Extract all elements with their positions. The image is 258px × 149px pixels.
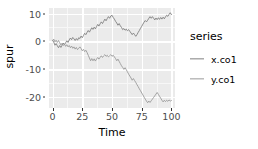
x-axis-tick-label: 25 [76, 111, 88, 122]
legend: series x.co1y.co1 [189, 30, 258, 89]
legend-item[interactable]: y.co1 [189, 69, 258, 89]
y-axis-tick-label-group: 100-10-20 [16, 8, 45, 108]
x-axis-tick-label: 50 [106, 111, 118, 122]
y-axis-tick-label: -20 [25, 91, 41, 102]
x-axis-title: Time [49, 126, 175, 139]
y-axis-title-text: spur [3, 44, 16, 68]
y-axis-tick-label: -10 [25, 64, 41, 75]
x-axis-tick-label: 100 [162, 111, 180, 122]
plot-panel [49, 8, 175, 108]
y-axis-tick-mark [43, 41, 46, 42]
chart-container: spur 100-10-20 0255075100 Time series x.… [0, 0, 258, 149]
x-axis-tick-label: 0 [50, 111, 56, 122]
y-axis-tick-label: 0 [35, 36, 41, 47]
y-axis-tick-mark [43, 13, 46, 14]
legend-key-line-icon [189, 72, 205, 86]
legend-title: series [189, 30, 258, 43]
y-axis-tick-mark [43, 96, 46, 97]
legend-key-line-icon [189, 52, 205, 66]
y-axis-tick-label: 10 [29, 8, 41, 19]
series-lines [49, 8, 175, 108]
x-axis-title-text: Time [99, 126, 126, 139]
legend-item-group: x.co1y.co1 [189, 49, 258, 89]
series-line-y.co1 [53, 39, 172, 103]
x-axis-tick-label-group: 0255075100 [49, 111, 175, 124]
series-line-x.co1 [53, 13, 172, 48]
x-axis-tick-label: 75 [136, 111, 148, 122]
y-axis-tick-mark [43, 69, 46, 70]
legend-item-label: x.co1 [211, 54, 237, 65]
legend-item-label: y.co1 [211, 74, 235, 85]
legend-item[interactable]: x.co1 [189, 49, 258, 69]
